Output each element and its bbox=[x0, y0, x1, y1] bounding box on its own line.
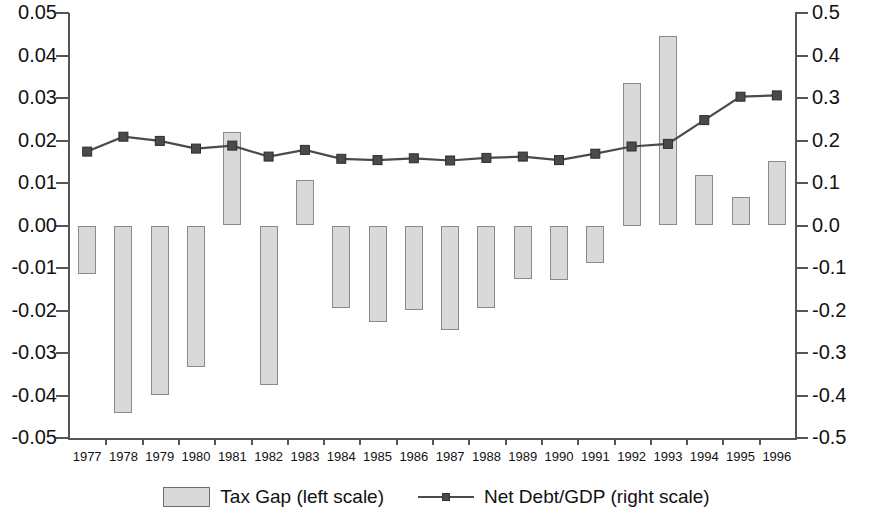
line-marker bbox=[300, 145, 309, 154]
chart-figure: 0.050.040.030.020.010.00-0.01-0.02-0.03-… bbox=[0, 0, 873, 521]
line-marker bbox=[228, 141, 237, 150]
line-marker bbox=[518, 152, 527, 161]
line-marker bbox=[700, 116, 709, 125]
line-marker bbox=[155, 136, 164, 145]
line-series-net-debt-gdp bbox=[0, 0, 873, 521]
line-marker bbox=[192, 144, 201, 153]
line-marker bbox=[627, 142, 636, 151]
legend-bar-swatch-icon bbox=[163, 487, 210, 507]
chart-legend: Tax Gap (left scale) Net Debt/GDP (right… bbox=[0, 487, 873, 507]
net-debt-gdp-polyline bbox=[87, 95, 777, 160]
line-marker bbox=[83, 147, 92, 156]
line-marker bbox=[446, 156, 455, 165]
line-marker bbox=[663, 139, 672, 148]
line-marker bbox=[409, 154, 418, 163]
line-marker bbox=[264, 152, 273, 161]
legend-line-square-icon bbox=[418, 490, 474, 504]
legend-label-tax-gap: Tax Gap (left scale) bbox=[220, 487, 384, 507]
line-marker bbox=[555, 156, 564, 165]
legend-item-tax-gap: Tax Gap (left scale) bbox=[163, 487, 384, 507]
line-marker bbox=[772, 91, 781, 100]
line-marker bbox=[482, 153, 491, 162]
line-marker bbox=[337, 154, 346, 163]
line-marker bbox=[591, 149, 600, 158]
line-marker bbox=[119, 132, 128, 141]
line-marker bbox=[736, 92, 745, 101]
legend-item-net-debt-gdp: Net Debt/GDP (right scale) bbox=[418, 487, 710, 507]
net-debt-gdp-markers bbox=[83, 91, 782, 165]
legend-label-net-debt-gdp: Net Debt/GDP (right scale) bbox=[484, 487, 710, 507]
line-marker bbox=[373, 156, 382, 165]
